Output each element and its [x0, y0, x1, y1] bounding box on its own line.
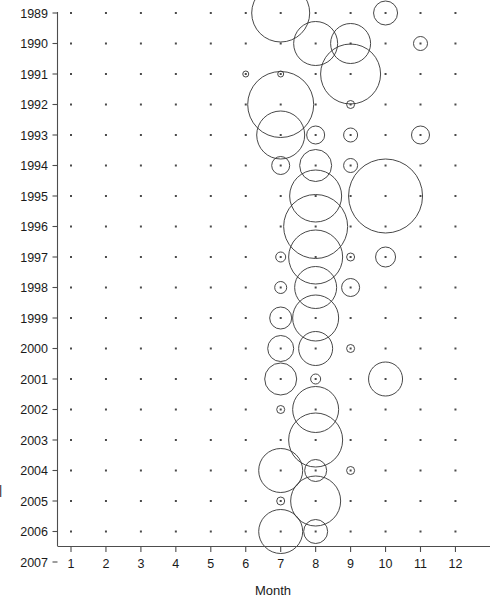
grid-dot — [245, 409, 247, 411]
grid-dot — [385, 256, 387, 258]
grid-dot — [210, 531, 212, 533]
y-tick-label: 1998 — [20, 281, 48, 295]
grid-dot — [350, 500, 352, 502]
grid-dot — [175, 439, 177, 441]
grid-dot — [385, 195, 387, 197]
grid-dot — [385, 73, 387, 75]
grid-dot — [420, 195, 422, 197]
grid-dot — [70, 226, 72, 228]
grid-dot — [245, 287, 247, 289]
y-tick-label: 1989 — [20, 7, 48, 21]
grid-dot — [105, 256, 107, 258]
grid-dot — [105, 226, 107, 228]
grid-dot — [454, 43, 456, 45]
grid-dot — [454, 439, 456, 441]
bubbles-layer — [243, 0, 430, 554]
grid-dot — [350, 134, 352, 136]
grid-dot — [105, 134, 107, 136]
grid-dot — [245, 531, 247, 533]
grid-dot — [454, 409, 456, 411]
grid-dot — [420, 348, 422, 350]
grid-dot — [105, 470, 107, 472]
grid-dot — [420, 256, 422, 258]
grid-dot — [175, 317, 177, 319]
grid-dot — [315, 409, 317, 411]
grid-dot — [175, 226, 177, 228]
grid-dot — [280, 104, 282, 106]
x-tick-marks — [71, 547, 455, 553]
grid-dot — [105, 195, 107, 197]
grid-dot — [315, 317, 317, 319]
grid-dot — [280, 439, 282, 441]
grid-dot — [420, 104, 422, 106]
x-tick-label: 5 — [207, 557, 214, 571]
grid-dot — [70, 439, 72, 441]
x-tick-label: 1 — [68, 557, 75, 571]
x-tick-label: 4 — [172, 557, 179, 571]
grid-dot — [280, 43, 282, 45]
grid-dot — [70, 378, 72, 380]
x-tick-label: 11 — [414, 557, 427, 571]
grid-dot — [70, 500, 72, 502]
grid-dot — [105, 500, 107, 502]
grid-dot — [70, 134, 72, 136]
y-tick-label: 2007 — [20, 556, 48, 570]
y-tick-label: 2006 — [20, 525, 48, 539]
grid-dot — [454, 317, 456, 319]
grid-dot — [245, 378, 247, 380]
grid-dot — [105, 439, 107, 441]
grid-dot — [105, 43, 107, 45]
grid-dot — [70, 73, 72, 75]
grid-dot — [385, 409, 387, 411]
grid-dot — [210, 73, 212, 75]
grid-dot — [350, 226, 352, 228]
grid-dot — [454, 287, 456, 289]
grid-dot — [385, 531, 387, 533]
grid-dot — [454, 470, 456, 472]
grid-dot — [140, 470, 142, 472]
grid-dot — [420, 470, 422, 472]
grid-dot — [280, 531, 282, 533]
grid-dot — [280, 409, 282, 411]
grid-dot — [315, 531, 317, 533]
grid-dot — [315, 12, 317, 14]
y-tick-marks — [53, 13, 58, 562]
grid-dot — [454, 12, 456, 14]
x-tick-label: 8 — [312, 557, 319, 571]
grid-dot — [245, 104, 247, 106]
grid-dot — [280, 195, 282, 197]
x-tick-label: 7 — [277, 557, 284, 571]
grid-dot — [140, 500, 142, 502]
grid-dot — [210, 134, 212, 136]
grid-dot — [385, 287, 387, 289]
grid-dot — [140, 409, 142, 411]
grid-dot — [175, 500, 177, 502]
grid-dot — [315, 104, 317, 106]
grid-dot — [175, 43, 177, 45]
grid-dot — [210, 409, 212, 411]
grid-dot — [245, 12, 247, 14]
grid-dot — [210, 195, 212, 197]
grid-dot — [350, 165, 352, 167]
grid-dot — [315, 439, 317, 441]
grid-dot — [140, 439, 142, 441]
grid-dot — [420, 500, 422, 502]
grid-dot — [210, 378, 212, 380]
grid-dot — [315, 348, 317, 350]
grid-dot — [70, 12, 72, 14]
grid-dot-matrix — [70, 12, 456, 533]
grid-dot — [350, 73, 352, 75]
grid-dot — [280, 165, 282, 167]
grid-dot — [420, 439, 422, 441]
y-tick-label: 1997 — [20, 251, 48, 265]
grid-dot — [420, 287, 422, 289]
y-axis-tick-labels: 1989199019911992199319941995199619971998… — [20, 7, 48, 570]
grid-dot — [420, 378, 422, 380]
grid-dot — [350, 378, 352, 380]
grid-dot — [315, 287, 317, 289]
grid-dot — [350, 287, 352, 289]
grid-dot — [175, 73, 177, 75]
grid-dot — [420, 226, 422, 228]
grid-dot — [245, 317, 247, 319]
grid-dot — [454, 256, 456, 258]
